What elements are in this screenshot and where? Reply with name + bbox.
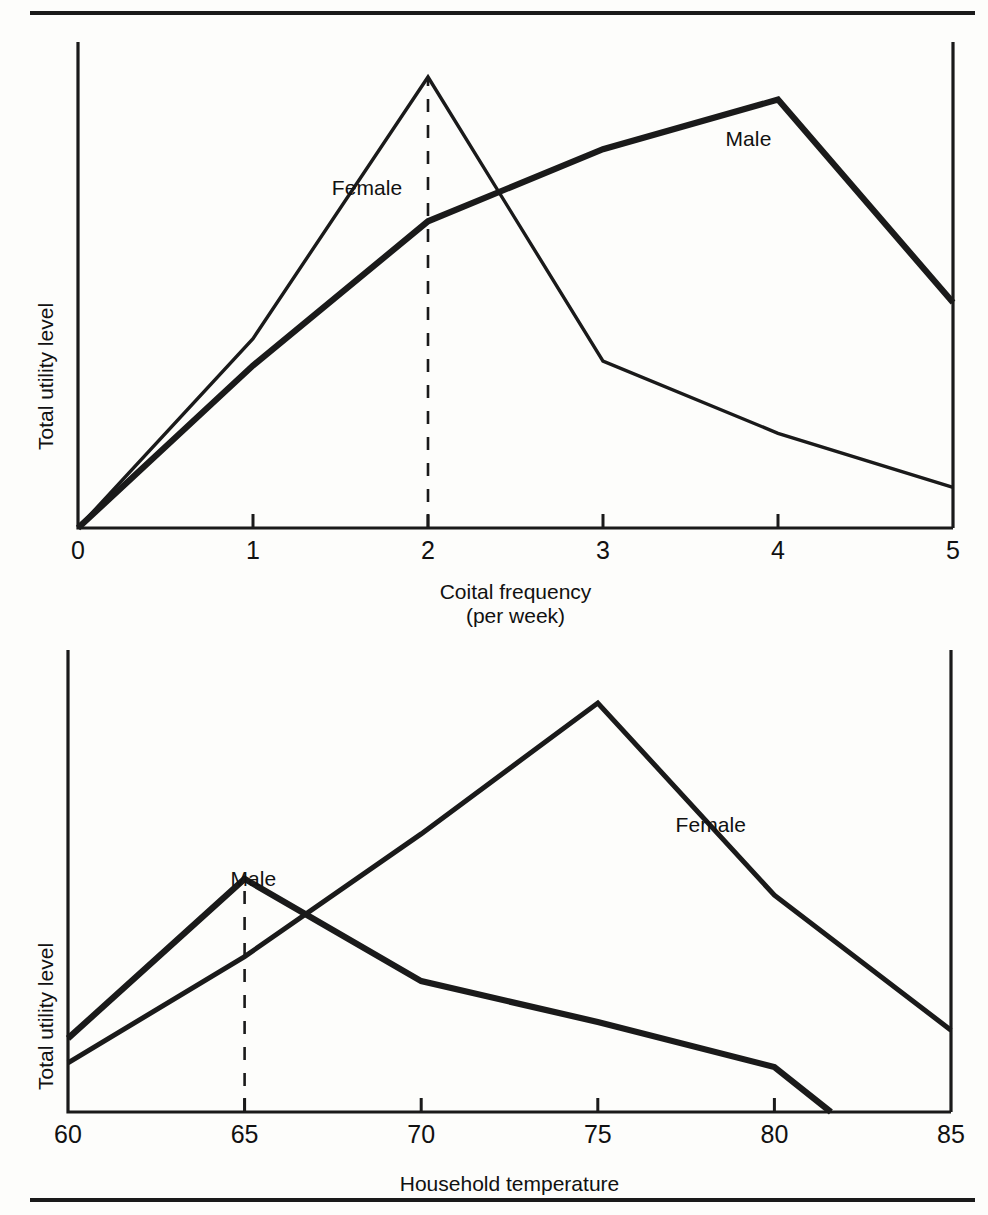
series-annotation-female: Female <box>676 813 747 837</box>
x-axis-title: Coital frequency(per week) <box>440 580 592 628</box>
x-axis-tick-label: 75 <box>584 1120 612 1149</box>
x-axis-tick-label: 2 <box>421 536 435 565</box>
chart-panel-coital-frequency: Total utility level 012345FemaleMaleCoit… <box>0 30 988 610</box>
y-axis-label-temperature: Total utility level <box>34 943 58 1090</box>
series-line-female <box>78 77 953 528</box>
x-axis-tick-label: 65 <box>231 1120 259 1149</box>
series-line-female <box>68 703 951 1063</box>
plot-area-temperature <box>0 640 988 1185</box>
axis-lines <box>78 42 953 528</box>
axis-lines <box>68 650 951 1112</box>
plot-area-coital <box>0 30 988 610</box>
series-line-male <box>78 100 953 528</box>
series-annotation-female: Female <box>332 176 403 200</box>
x-axis-tick-label: 1 <box>246 536 260 565</box>
x-axis-tick-label: 0 <box>71 536 85 565</box>
chart-svg-coital <box>0 30 988 610</box>
x-axis-tick-label: 5 <box>946 536 960 565</box>
chart-svg-temperature <box>0 640 988 1185</box>
figure-top-rule <box>30 11 975 15</box>
y-axis-label-coital: Total utility level <box>34 303 58 450</box>
x-axis-tick-label: 3 <box>596 536 610 565</box>
series-annotation-male: Male <box>726 127 772 151</box>
x-axis-title-line1: Coital frequency <box>440 580 592 604</box>
figure-bottom-rule <box>30 1198 975 1202</box>
x-axis-tick-label: 70 <box>407 1120 435 1149</box>
x-axis-title: Household temperature <box>400 1172 619 1196</box>
series-annotation-male: Male <box>230 867 276 891</box>
x-axis-title-line2: (per week) <box>440 604 592 628</box>
figure-page: Total utility level 012345FemaleMaleCoit… <box>0 0 988 1215</box>
x-axis-tick-label: 60 <box>54 1120 82 1149</box>
x-axis-tick-label: 85 <box>937 1120 965 1149</box>
chart-panel-household-temperature: Total utility level 606570758085MaleFema… <box>0 640 988 1185</box>
x-axis-tick-label: 4 <box>771 536 785 565</box>
x-axis-tick-label: 80 <box>760 1120 788 1149</box>
x-axis-title-line1: Household temperature <box>400 1172 619 1196</box>
